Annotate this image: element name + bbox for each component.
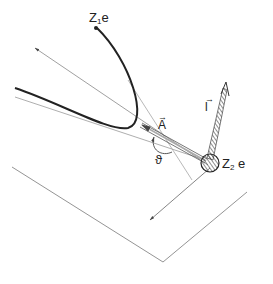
scattering-plane (12, 167, 247, 262)
vector-arrow-icon: → (205, 95, 214, 104)
diagram-canvas (0, 0, 273, 284)
vector-l-label: → l (205, 101, 208, 113)
vector-arrow-icon: → (158, 113, 167, 122)
projectile-dot (94, 26, 98, 30)
asymptote-lines (15, 48, 208, 180)
projectile-label: Z1e (89, 11, 109, 26)
outgoing-arrow (150, 168, 210, 220)
angle-label: ϑ (155, 153, 162, 166)
diagram: Z1e Z2 e → A → l ϑ (0, 0, 273, 284)
target-label: Z2 e (222, 157, 245, 172)
target-nucleus (201, 154, 219, 172)
trajectory-curve (15, 28, 137, 128)
vector-A-label: → A (158, 119, 166, 131)
